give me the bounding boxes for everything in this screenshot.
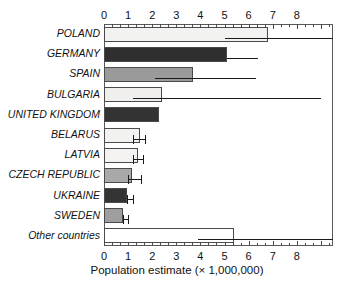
error-bar-line <box>225 38 333 39</box>
error-bar-cap <box>127 195 128 204</box>
population-bar-chart: 012345678 012345678 POLANDGERMANYSPAINBU… <box>0 0 354 285</box>
x-tick-label: 7 <box>270 10 276 21</box>
x-tick-label: 6 <box>246 251 252 262</box>
x-tick-label: 0 <box>101 10 107 21</box>
x-tick-minor <box>305 243 306 246</box>
x-tick-major <box>297 24 298 29</box>
x-tick-minor <box>313 24 314 27</box>
x-tick-minor <box>160 243 161 246</box>
x-axis-title: Population estimate (× 1,000,000) <box>0 264 354 277</box>
x-tick-minor <box>289 24 290 27</box>
error-bar-cap <box>133 195 134 204</box>
error-bar-cap <box>145 135 146 144</box>
category-label: SPAIN <box>0 68 100 79</box>
x-tick-label: 5 <box>221 10 227 21</box>
category-label: UKRAINE <box>0 190 100 201</box>
x-tick-minor <box>281 243 282 246</box>
error-bar-cap <box>123 215 124 224</box>
x-tick-minor <box>233 243 234 246</box>
category-label: Other countries <box>0 230 100 241</box>
x-tick-label: 5 <box>221 251 227 262</box>
x-tick-major <box>273 24 274 29</box>
category-label: SWEDEN <box>0 210 100 221</box>
category-label: BELARUS <box>0 129 100 140</box>
x-tick-minor <box>305 24 306 27</box>
x-tick-minor <box>168 243 169 246</box>
bar <box>104 228 234 243</box>
error-bar-line <box>227 58 258 59</box>
bar <box>104 47 227 62</box>
x-tick-label: 3 <box>173 10 179 21</box>
category-label: POLAND <box>0 28 100 39</box>
x-tick-minor <box>329 243 330 246</box>
x-tick-label: 3 <box>173 251 179 262</box>
error-bar-cap <box>141 175 142 184</box>
x-tick-label: 4 <box>197 10 203 21</box>
x-tick-minor <box>265 243 266 246</box>
error-bar-line <box>155 78 256 79</box>
x-tick-minor <box>281 24 282 27</box>
x-tick-minor <box>184 243 185 246</box>
error-bar-cap <box>128 175 129 184</box>
x-tick-major <box>297 241 298 246</box>
category-label: UNITED KINGDOM <box>0 109 100 120</box>
x-tick-minor <box>257 243 258 246</box>
error-bar-line <box>133 159 143 160</box>
x-tick-minor <box>136 243 137 246</box>
x-tick-major <box>273 241 274 246</box>
x-tick-minor <box>120 243 121 246</box>
bar <box>104 67 193 82</box>
error-bar-cap <box>128 215 129 224</box>
bar <box>104 27 268 42</box>
x-tick-label: 6 <box>246 10 252 21</box>
x-tick-label: 7 <box>270 251 276 262</box>
x-tick-minor <box>144 243 145 246</box>
x-tick-major <box>249 241 250 246</box>
category-label: CZECH REPUBLIC <box>0 169 100 180</box>
x-tick-major <box>321 24 322 29</box>
x-tick-label: 4 <box>197 251 203 262</box>
bar <box>104 87 162 102</box>
error-bar-line <box>133 139 145 140</box>
x-tick-minor <box>208 243 209 246</box>
x-tick-minor <box>289 243 290 246</box>
x-tick-minor <box>192 243 193 246</box>
category-label: GERMANY <box>0 48 100 59</box>
bar <box>104 107 159 122</box>
x-tick-minor <box>313 243 314 246</box>
error-bar-cap <box>143 155 144 164</box>
error-bar-line <box>133 98 321 99</box>
bar <box>104 128 140 143</box>
error-bar-cap <box>133 135 134 144</box>
bar <box>104 188 127 203</box>
error-bar-line <box>198 239 333 240</box>
x-tick-label: 8 <box>294 251 300 262</box>
error-bar-line <box>128 179 141 180</box>
category-label: LATVIA <box>0 149 100 160</box>
x-tick-label: 2 <box>149 10 155 21</box>
x-tick-label: 1 <box>125 10 131 21</box>
category-label: BULGARIA <box>0 89 100 100</box>
x-tick-major <box>321 241 322 246</box>
x-tick-minor <box>112 243 113 246</box>
x-tick-label: 2 <box>149 251 155 262</box>
x-tick-label: 8 <box>294 10 300 21</box>
x-tick-label: 0 <box>101 251 107 262</box>
bar <box>104 208 123 223</box>
error-bar-cap <box>133 155 134 164</box>
x-tick-label: 1 <box>125 251 131 262</box>
x-tick-minor <box>216 243 217 246</box>
x-tick-minor <box>329 24 330 27</box>
x-tick-minor <box>241 243 242 246</box>
